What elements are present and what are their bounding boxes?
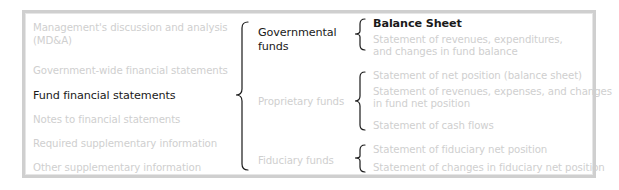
large-brace-icon [236,22,248,170]
statement-net-position: Statement of net position (balance sheet… [373,69,582,82]
statement-cash-flows: Statement of cash flows [373,119,494,132]
statement-changes-fiduciary-net-position: Statement of changes in fiduciary net po… [373,161,605,174]
fund-type-fiduciary: Fiduciary funds [258,154,334,167]
fiduciary-brace-icon [355,145,365,172]
governmental-brace-icon [355,19,365,50]
fund-type-governmental: Governmental funds [258,26,337,54]
statement-revenues-expenses: Statement of revenues, expenses, and cha… [373,86,612,110]
fund-type-proprietary: Proprietary funds [258,95,344,108]
statement-balance-sheet: Balance Sheet [373,17,462,30]
proprietary-brace-icon [355,72,365,130]
statement-revenues-expenditures: Statement of revenues, expenditures, and… [373,34,563,58]
statement-fiduciary-net-position: Statement of fiduciary net position [373,143,547,156]
